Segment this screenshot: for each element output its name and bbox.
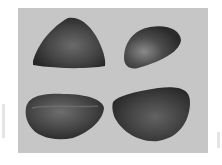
scan-artifact-left xyxy=(2,104,5,138)
seed-bottom-right xyxy=(112,87,190,141)
seed-bottom-left xyxy=(26,94,104,139)
image-description: Grayscale photograph of four dark, round… xyxy=(0,0,1,1)
scan-artifact-right xyxy=(217,132,220,148)
photograph xyxy=(18,8,208,153)
photo-canvas xyxy=(18,8,208,153)
seed-top-right xyxy=(124,26,181,68)
seed-top-left xyxy=(33,18,105,68)
